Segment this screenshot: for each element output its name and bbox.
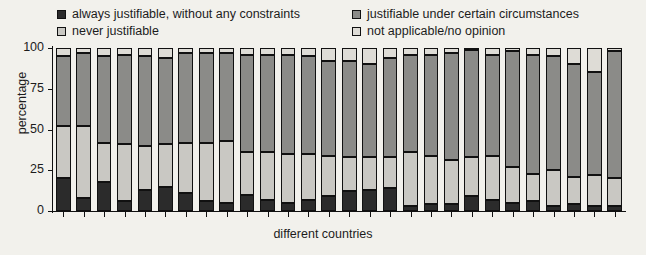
x-tick-mark	[513, 212, 514, 217]
x-tick-mark	[349, 212, 350, 217]
bar-segment	[281, 203, 296, 211]
bar-segment	[260, 48, 275, 55]
bar-stack	[362, 48, 377, 211]
bar-segment	[607, 178, 622, 206]
bar-segment	[383, 58, 398, 157]
bar-segment	[383, 48, 398, 58]
x-tick-mark	[492, 212, 493, 217]
x-tick-mark	[594, 212, 595, 217]
bar-segment	[526, 201, 541, 211]
bar-segment	[97, 182, 112, 211]
legend-label: not applicable/no opinion	[367, 25, 505, 38]
bar-stack	[546, 48, 561, 211]
bar-segment	[97, 143, 112, 182]
x-axis-line	[52, 211, 626, 212]
bar-stack	[219, 48, 234, 211]
bar-segment	[199, 53, 214, 143]
bar-segment	[158, 58, 173, 144]
bar-segment	[76, 53, 91, 126]
bar-segment	[526, 55, 541, 174]
bar-segment	[485, 200, 500, 211]
legend-item-always-justifiable: always justifiable, without any constrai…	[57, 8, 300, 21]
y-tick-label: 0	[0, 204, 44, 216]
x-tick-mark	[329, 212, 330, 217]
bar-segment	[546, 48, 561, 56]
bar-segment	[260, 200, 275, 211]
bar-stack	[178, 48, 193, 211]
bar-segment	[383, 188, 398, 211]
bar-segment	[301, 200, 316, 211]
bar-segment	[485, 48, 500, 55]
bar-segment	[117, 55, 132, 145]
bar-stack	[260, 48, 275, 211]
bar-stack	[607, 48, 622, 211]
bar-segment	[607, 51, 622, 178]
x-tick-mark	[268, 212, 269, 217]
bar-segment	[546, 56, 561, 170]
bar-segment	[424, 48, 439, 55]
x-tick-mark	[574, 212, 575, 217]
bar-segment	[301, 154, 316, 200]
bar-segment	[342, 61, 357, 157]
bar-segment	[383, 157, 398, 188]
bar-segment	[97, 56, 112, 142]
legend-swatch-icon	[352, 27, 361, 36]
bar-stack	[199, 48, 214, 211]
bar-segment	[321, 48, 336, 61]
x-tick-mark	[390, 212, 391, 217]
x-tick-mark	[206, 212, 207, 217]
bar-segment	[424, 55, 439, 156]
bar-segment	[240, 55, 255, 153]
bar-segment	[546, 206, 561, 211]
bar-segment	[342, 191, 357, 211]
bar-stack	[97, 48, 112, 211]
bar-segment	[219, 53, 234, 141]
bar-segment	[301, 48, 316, 56]
bar-segment	[138, 56, 153, 146]
x-tick-mark	[165, 212, 166, 217]
bar-stack	[567, 48, 582, 211]
bar-segment	[424, 204, 439, 211]
bar-segment	[362, 48, 377, 64]
bar-stack	[76, 48, 91, 211]
bar-segment	[321, 61, 336, 156]
bar-segment	[464, 157, 479, 196]
bar-segment	[219, 141, 234, 203]
bar-segment	[260, 55, 275, 153]
bar-segment	[240, 152, 255, 194]
bar-segment	[240, 195, 255, 211]
bar-segment	[587, 72, 602, 175]
bar-segment	[281, 55, 296, 154]
bar-segment	[76, 126, 91, 198]
bar-stack	[158, 48, 173, 211]
bar-segment	[138, 48, 153, 56]
bar-segment	[403, 152, 418, 206]
bar-segment	[219, 48, 234, 53]
legend-item-never-justifiable: never justifiable	[57, 25, 159, 38]
bar-segment	[56, 56, 71, 126]
bar-segment	[158, 144, 173, 186]
x-tick-mark	[451, 212, 452, 217]
bar-segment	[76, 198, 91, 211]
x-tick-mark	[186, 212, 187, 217]
bar-segment	[567, 177, 582, 205]
bar-segment	[281, 48, 296, 55]
bar-segment	[607, 48, 622, 51]
y-tick-label: 25	[0, 163, 44, 175]
legend-swatch-icon	[352, 10, 361, 19]
bar-segment	[587, 175, 602, 206]
bar-segment	[485, 156, 500, 200]
bar-stack	[383, 48, 398, 211]
bar-segment	[403, 206, 418, 211]
bar-stack	[281, 48, 296, 211]
x-tick-mark	[370, 212, 371, 217]
x-axis-label: different countries	[0, 227, 646, 241]
bar-segment	[138, 190, 153, 211]
bar-segment	[587, 206, 602, 211]
bar-stack	[505, 48, 520, 211]
x-tick-mark	[615, 212, 616, 217]
x-tick-mark	[308, 212, 309, 217]
bar-segment	[607, 206, 622, 211]
x-tick-mark	[104, 212, 105, 217]
bar-segment	[444, 204, 459, 211]
